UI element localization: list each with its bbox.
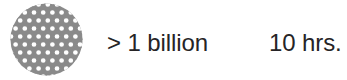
stat-quantity-label: > 1 billion: [107, 31, 208, 55]
circle-packing-cluster-icon: [10, 3, 83, 76]
infographic-stat-row: > 1 billion 10 hrs.: [0, 0, 347, 80]
stat-duration-label: 10 hrs.: [269, 31, 342, 55]
